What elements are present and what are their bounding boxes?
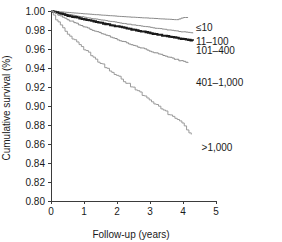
x-tick-label: 3 <box>147 206 153 217</box>
y-axis-ticks: 0.800.820.840.860.880.900.920.940.960.98… <box>26 6 51 207</box>
y-tick-label: 0.92 <box>26 82 46 93</box>
series-label: ≤10 <box>196 22 213 33</box>
survival-curves <box>51 11 193 135</box>
x-tick-label: 5 <box>213 206 219 217</box>
survival-curve-chart: 0.800.820.840.860.880.900.920.940.960.98… <box>0 0 282 242</box>
x-axis-title: Follow-up (years) <box>92 229 169 240</box>
y-tick-label: 1.00 <box>26 6 46 17</box>
y-tick-label: 0.80 <box>26 196 46 207</box>
x-tick-label: 4 <box>180 206 186 217</box>
series-label: >1,000 <box>202 142 233 153</box>
y-tick-label: 0.86 <box>26 139 46 150</box>
x-tick-label: 2 <box>114 206 120 217</box>
y-tick-label: 0.94 <box>26 63 46 74</box>
y-axis-group: 0.800.820.840.860.880.900.920.940.960.98… <box>26 6 51 207</box>
y-tick-label: 0.84 <box>26 158 46 169</box>
x-tick-label: 1 <box>81 206 87 217</box>
series-labels: ≤1011–100101–400401–1,000>1,000 <box>196 22 244 153</box>
series-label: 101–400 <box>196 45 235 56</box>
y-tick-label: 0.82 <box>26 177 46 188</box>
x-tick-label: 0 <box>48 206 54 217</box>
y-tick-label: 0.98 <box>26 25 46 36</box>
y-axis-title: Cumulative survival (%) <box>1 55 12 160</box>
x-axis-ticks: 012345 <box>48 201 219 217</box>
survival-curve <box>51 11 193 33</box>
series-label: 401–1,000 <box>196 77 244 88</box>
x-axis-group: 012345 <box>48 201 219 217</box>
chart-figure: 0.800.820.840.860.880.900.920.940.960.98… <box>0 0 282 242</box>
y-tick-label: 0.96 <box>26 44 46 55</box>
y-tick-label: 0.88 <box>26 120 46 131</box>
y-tick-label: 0.90 <box>26 101 46 112</box>
